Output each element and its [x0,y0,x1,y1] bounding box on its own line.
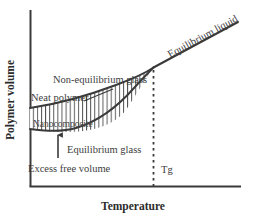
polymer-volume-temperature-figure: Polymer volume Temperature Non-equilibri… [0,0,254,220]
y-axis-label: Polymer volume [4,60,17,140]
annotation-equilibrium-liquid: Equilibrium liquid [166,13,240,60]
annotation-excess-free-volume: Excess free volume [28,163,111,174]
annotation-tg: Tg [161,164,173,175]
annotation-non-equilibrium-glass: Non-equilibrium glass [53,74,147,85]
annotation-nanocomposite: Nanocomposite [33,119,93,129]
x-axis-label: Temperature [101,200,165,213]
annotation-equilibrium-glass: Equilibrium glass [67,144,141,155]
annotation-neat-polymer: Neat polymer [31,92,89,103]
